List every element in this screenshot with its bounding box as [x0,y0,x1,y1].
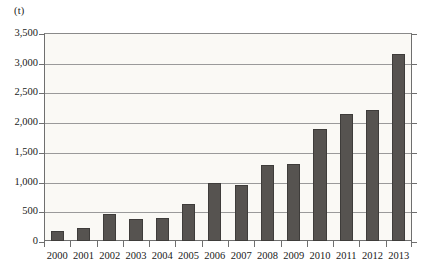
bar [261,165,274,241]
y-axis-tick-mark [412,212,417,213]
bar [392,54,405,241]
y-axis-tick-label: 2,500 [0,87,38,98]
y-axis-tick-mark [412,64,417,65]
x-axis-tick-mark [281,241,282,247]
x-axis-tick-mark [123,241,124,247]
y-axis-tick-label: 3,000 [0,58,38,69]
x-axis-tick-label: 2002 [97,249,123,262]
x-axis-tick-label: 2010 [307,249,333,262]
bar [129,219,142,241]
x-axis-ticks [44,241,412,248]
y-axis-tick-mark [412,93,417,94]
y-axis-tick-label: 1,000 [0,177,38,188]
x-axis-tick-mark [175,241,176,247]
y-axis-tick-mark [412,153,417,154]
y-axis-tick-labels: 05001,0001,5002,0002,5003,0003,500 [0,33,38,241]
x-axis-tick-mark [411,241,412,247]
x-axis-tick-mark [97,241,98,247]
y-axis-tick-mark [412,183,417,184]
bar [51,231,64,241]
bar [235,185,248,241]
y-axis-tick-label: 500 [0,206,38,217]
x-axis-tick-mark [359,241,360,247]
y-axis-unit-label: (t) [14,5,25,17]
y-axis-tick-mark [412,242,417,243]
bar [103,214,116,241]
x-axis-tick-mark [202,241,203,247]
bar [366,110,379,241]
x-axis-tick-label: 2006 [202,249,228,262]
y-axis-tick-label: 2,000 [0,117,38,128]
y-axis-tick-mark [412,34,417,35]
x-axis-tick-mark [307,241,308,247]
x-axis-tick-mark [333,241,334,247]
bar-chart: (t) 05001,0001,5002,0002,5003,0003,500 2… [0,0,432,268]
x-axis-tick-labels: 2000200120022003200420052006200720082009… [44,249,412,265]
bar-series [44,33,412,241]
y-axis-tick-mark [412,123,417,124]
x-axis-tick-label: 2001 [70,249,96,262]
x-axis-tick-label: 2005 [175,249,201,262]
y-axis-tick-label: 3,500 [0,28,38,39]
x-axis-tick-mark [149,241,150,247]
bar [287,164,300,241]
x-axis-tick-label: 2012 [359,249,385,262]
bar [156,218,169,241]
y-axis-tick-label: 1,500 [0,147,38,158]
x-axis-tick-mark [228,241,229,247]
bar [182,204,195,241]
bar [77,228,90,241]
x-axis-tick-mark [254,241,255,247]
x-axis-tick-label: 2007 [228,249,254,262]
bar [340,114,353,241]
x-axis-tick-mark [70,241,71,247]
x-axis-tick-mark [44,241,45,247]
x-axis-tick-label: 2013 [386,249,412,262]
bar [313,129,326,241]
x-axis-tick-label: 2011 [333,249,359,262]
bar [208,183,221,241]
x-axis-tick-mark [386,241,387,247]
x-axis-tick-label: 2004 [149,249,175,262]
x-axis-tick-label: 2003 [123,249,149,262]
y-axis-tick-label: 0 [0,236,38,247]
x-axis-tick-label: 2009 [281,249,307,262]
x-axis-tick-label: 2000 [44,249,70,262]
x-axis-tick-label: 2008 [254,249,280,262]
